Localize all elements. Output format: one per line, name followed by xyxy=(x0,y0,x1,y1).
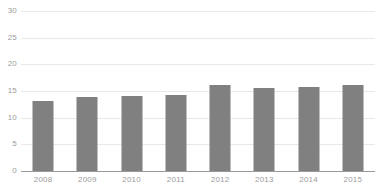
y-axis-tick-label: 25 xyxy=(0,33,17,42)
x-axis-tick-label: 2012 xyxy=(198,174,242,186)
bar-slot xyxy=(110,11,154,171)
y-axis-tick-label: 15 xyxy=(0,86,17,95)
axis-baseline xyxy=(21,171,375,172)
y-axis-tick-label: 20 xyxy=(0,59,17,68)
x-axis-tick-label: 2009 xyxy=(65,174,109,186)
y-axis: 051015202530 xyxy=(0,0,17,193)
bar-slot xyxy=(287,11,331,171)
bar[interactable] xyxy=(165,95,186,171)
bar[interactable] xyxy=(342,85,363,171)
bar-slot xyxy=(21,11,65,171)
bar[interactable] xyxy=(210,85,231,171)
y-axis-tick-label: 10 xyxy=(0,113,17,122)
x-axis-tick-label: 2011 xyxy=(154,174,198,186)
bar-slot xyxy=(154,11,198,171)
x-axis-tick-label: 2014 xyxy=(287,174,331,186)
bar[interactable] xyxy=(33,101,54,171)
bar[interactable] xyxy=(121,96,142,171)
bar-slot xyxy=(65,11,109,171)
x-axis-tick-label: 2013 xyxy=(242,174,286,186)
bars-layer xyxy=(21,11,375,171)
y-axis-tick-label: 0 xyxy=(0,166,17,175)
bar[interactable] xyxy=(77,97,98,171)
bar-slot xyxy=(331,11,375,171)
x-axis-tick-label: 2010 xyxy=(110,174,154,186)
bar[interactable] xyxy=(298,87,319,171)
x-axis: 20082009201020112012201320142015 xyxy=(21,174,375,190)
bar-slot xyxy=(198,11,242,171)
y-axis-tick-label: 5 xyxy=(0,139,17,148)
x-axis-tick-label: 2008 xyxy=(21,174,65,186)
y-axis-tick-label: 30 xyxy=(0,6,17,15)
bar-chart: 051015202530 200820092010201120122013201… xyxy=(0,0,379,193)
bar-slot xyxy=(242,11,286,171)
bar[interactable] xyxy=(254,88,275,171)
x-axis-tick-label: 2015 xyxy=(331,174,375,186)
